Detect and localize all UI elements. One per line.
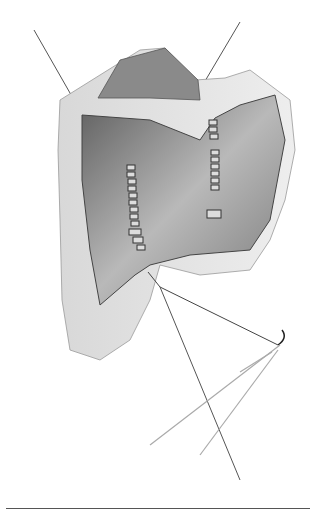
suture-tail: [160, 287, 240, 480]
needle-holder: [150, 345, 280, 455]
suture-thread: [148, 272, 278, 345]
curved-needle: [278, 330, 284, 345]
bottom-rule: [6, 508, 310, 509]
retraction-suture-left: [34, 30, 74, 100]
tissue-flap: [98, 48, 200, 100]
surgical-illustration: [0, 0, 317, 510]
